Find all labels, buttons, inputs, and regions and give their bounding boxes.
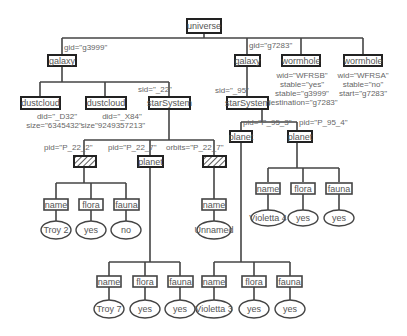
leaf-value[interactable]: yes	[76, 221, 106, 239]
node-attribute: size="6345432"	[26, 121, 82, 130]
node-attribute: destination="g7283"	[266, 98, 337, 107]
node-starsystem-left[interactable]: starSystem	[147, 97, 192, 109]
node-flora[interactable]: flora	[133, 276, 157, 287]
node-label: dustcloud	[87, 98, 126, 108]
leaf-value[interactable]: Troy 2	[41, 221, 71, 239]
node-attribute: wid="WFRSA"	[336, 71, 388, 80]
node-label: planet	[138, 157, 163, 167]
leaf-value[interactable]: no	[111, 221, 141, 239]
node-fauna[interactable]: fauna	[168, 276, 193, 287]
svg-text:Violetta 3: Violetta 3	[195, 304, 232, 314]
svg-text:name: name	[203, 200, 226, 210]
leaf-value[interactable]: Violetta 3	[195, 300, 232, 318]
edge-attribute: gid="g3999"	[64, 43, 107, 52]
svg-text:yes: yes	[247, 304, 262, 314]
svg-text:flora: flora	[136, 277, 154, 287]
leaf-value[interactable]: Violetta 4	[249, 210, 286, 226]
node-attribute: stable="no"	[343, 80, 384, 89]
node-attribute: stable="g3999"	[275, 89, 329, 98]
node-label: wormhole	[342, 56, 382, 66]
svg-text:fauna: fauna	[115, 200, 138, 210]
svg-text:name: name	[203, 277, 226, 287]
node-label: planet	[288, 132, 313, 142]
node-name[interactable]: name	[256, 183, 280, 194]
svg-text:fauna: fauna	[278, 277, 301, 287]
leaf-value[interactable]: yes	[239, 300, 269, 318]
node-label: universe	[187, 21, 221, 31]
node-planet-p22-7[interactable]: planet	[138, 156, 163, 167]
leaf-value[interactable]: yes	[275, 300, 305, 318]
node-galaxy-left[interactable]: galaxy	[48, 55, 76, 66]
node-starsystem-right[interactable]: starSystem	[225, 97, 270, 109]
svg-text:flora: flora	[82, 200, 100, 210]
node-flora[interactable]: flora	[291, 183, 315, 194]
svg-text:Troy 7: Troy 7	[96, 304, 121, 314]
node-wormhole-2[interactable]: wormhole	[342, 55, 382, 66]
edge-attribute: sid="_95"	[215, 86, 249, 95]
svg-text:yes: yes	[332, 213, 347, 223]
node-fauna[interactable]: fauna	[326, 183, 352, 194]
svg-text:yes: yes	[283, 304, 298, 314]
node-wormhole-1[interactable]: wormhole	[280, 55, 320, 66]
node-flora[interactable]: flora	[79, 199, 103, 210]
node-label: starSystem	[225, 98, 270, 108]
leaf-value[interactable]: yes	[288, 210, 318, 226]
tree-diagram: universe gid="g3999" galaxy gid="g7283" …	[0, 0, 407, 336]
svg-text:flora: flora	[294, 184, 312, 194]
leaf-value[interactable]: Unnamed	[194, 221, 233, 239]
svg-text:yes: yes	[173, 304, 188, 314]
node-fauna[interactable]: fauna	[114, 199, 139, 210]
node-name[interactable]: name	[202, 276, 226, 287]
edge-attribute: pid="P_22_7"	[108, 143, 157, 152]
svg-text:yes: yes	[138, 304, 153, 314]
leaf-value[interactable]: yes	[165, 300, 195, 318]
svg-text:name: name	[45, 200, 68, 210]
node-label: dustcloud	[21, 98, 60, 108]
svg-text:name: name	[257, 184, 280, 194]
node-name[interactable]: name	[202, 199, 226, 210]
node-label: galaxy	[234, 56, 261, 66]
node-attribute: did="_D32"	[37, 112, 77, 121]
node-galaxy-right[interactable]: galaxy	[234, 55, 261, 66]
node-attribute: did="_X84"	[102, 112, 142, 121]
svg-text:Unnamed: Unnamed	[194, 225, 233, 235]
node-attribute: wid="WFRSB"	[275, 71, 327, 80]
svg-text:Troy 2: Troy 2	[43, 225, 68, 235]
node-universe[interactable]: universe	[187, 19, 221, 33]
node-attribute: stable="yes"	[280, 80, 324, 89]
node-dustcloud-2[interactable]: dustcloud	[86, 97, 126, 109]
leaf-value[interactable]: yes	[130, 300, 160, 318]
node-planet-hatched[interactable]	[74, 156, 96, 167]
node-attribute: size"9249357213"	[81, 121, 146, 130]
svg-text:name: name	[98, 277, 121, 287]
node-dustcloud-1[interactable]: dustcloud	[21, 97, 60, 109]
node-attribute: start="g7283"	[339, 89, 387, 98]
edge-attribute: gid="g7283"	[249, 41, 292, 50]
svg-text:fauna: fauna	[328, 184, 351, 194]
leaf-value[interactable]: yes	[324, 210, 354, 226]
edge-attribute: pid="P_95_3"	[243, 118, 292, 127]
edge-attribute: pid="P_95_4"	[299, 118, 348, 127]
edge-attribute: sid="_22"	[138, 85, 172, 94]
node-planet-p95-3[interactable]: planet	[229, 131, 254, 142]
node-moon-hatched[interactable]	[203, 156, 226, 167]
svg-text:Violetta 4: Violetta 4	[249, 213, 286, 223]
node-label: planet	[229, 132, 254, 142]
svg-text:yes: yes	[296, 213, 311, 223]
edge-attribute: orbits="P_22_7"	[166, 143, 224, 152]
node-name[interactable]: name	[97, 276, 121, 287]
node-name[interactable]: name	[44, 199, 68, 210]
node-fauna[interactable]: fauna	[277, 276, 302, 287]
svg-text:fauna: fauna	[169, 277, 192, 287]
svg-text:no: no	[121, 225, 131, 235]
node-planet-p95-4[interactable]: planet	[288, 131, 313, 142]
svg-text:yes: yes	[84, 225, 99, 235]
node-flora[interactable]: flora	[242, 276, 266, 287]
svg-text:flora: flora	[245, 277, 263, 287]
node-label: wormhole	[280, 56, 320, 66]
node-label: galaxy	[49, 56, 76, 66]
leaf-value[interactable]: Troy 7	[94, 300, 124, 318]
edge-attribute: pid="P_22_2"	[44, 143, 93, 152]
node-label: starSystem	[147, 98, 192, 108]
